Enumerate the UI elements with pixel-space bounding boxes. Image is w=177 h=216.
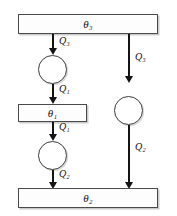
- node-theta2-label: θ₂: [83, 193, 93, 204]
- flow-label-left-q3: Q₃: [59, 36, 70, 46]
- arrow-head-circle-upper-to-theta1: [49, 97, 57, 104]
- node-circle-right: [114, 96, 143, 125]
- flow-label-left-q1-lower: Q₁: [59, 122, 70, 132]
- flow-label-right-q3-text: Q₃: [135, 51, 146, 62]
- flow-diagram-canvas: θ₃ Q₃ Q₁ θ₁ Q₁ Q₂ Q₃ Q₂: [0, 0, 177, 216]
- flow-label-left-q1-upper: Q₁: [59, 84, 70, 94]
- node-circle-left-upper: [38, 55, 67, 84]
- flow-label-left-q2: Q₂: [59, 169, 70, 179]
- flow-label-left-q2-text: Q₂: [59, 168, 70, 179]
- arrow-shaft-circle-right-to-theta2: [128, 125, 130, 184]
- node-theta2-box: θ₂: [18, 188, 158, 208]
- node-theta1-label: θ₁: [48, 108, 58, 119]
- flow-label-right-q2: Q₂: [135, 142, 146, 152]
- node-theta1-box: θ₁: [18, 104, 87, 122]
- flow-label-left-q1-lower-text: Q₁: [59, 121, 70, 132]
- node-theta3-label: θ₃: [83, 19, 93, 30]
- flow-label-right-q3: Q₃: [135, 52, 146, 62]
- node-theta3-box: θ₃: [18, 14, 158, 34]
- flow-label-left-q3-text: Q₃: [59, 35, 70, 46]
- node-circle-left-lower: [38, 141, 67, 170]
- arrow-head-theta3-to-circle-right: [125, 76, 133, 83]
- flow-label-right-q2-text: Q₂: [135, 141, 146, 152]
- arrow-head-theta1-to-circle-lower: [49, 134, 57, 141]
- arrow-shaft-theta3-to-circle-right: [128, 34, 130, 78]
- flow-label-left-q1-upper-text: Q₁: [59, 83, 70, 94]
- arrow-head-theta3-to-circle-upper: [49, 48, 57, 55]
